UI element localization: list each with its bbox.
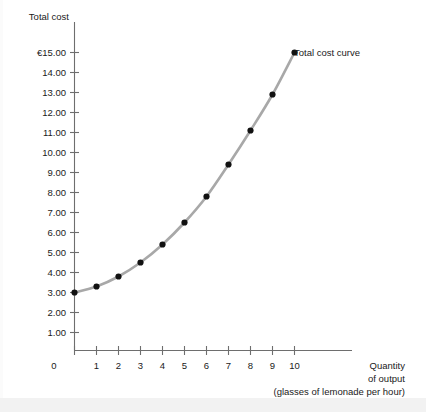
y-tick-label: 7.00 — [48, 207, 67, 218]
y-tick-label: 6.00 — [48, 227, 67, 238]
y-tick-label: 12.00 — [42, 107, 66, 118]
data-point — [247, 127, 253, 133]
y-tick-label: 9.00 — [48, 167, 67, 178]
y-tick-label: €15.00 — [37, 47, 66, 58]
x-tick-label: 3 — [138, 360, 143, 371]
x-tick-label: 4 — [160, 360, 165, 371]
data-point — [159, 241, 165, 247]
data-point — [203, 193, 209, 199]
data-point — [115, 273, 121, 279]
y-tick-label: 14.00 — [42, 67, 66, 78]
y-tick-label: 1.00 — [48, 327, 67, 338]
series-label: Total cost curve — [294, 47, 360, 58]
data-point — [137, 259, 143, 265]
total-cost-curve-chart: Total cost €15.00 14.00 13.00 12.00 11 — [0, 0, 426, 412]
y-tick-label: 13.00 — [42, 87, 66, 98]
y-tick-label: 3.00 — [48, 287, 67, 298]
x-tick-labels: 0 1 2 3 4 5 6 7 8 9 10 — [51, 360, 299, 371]
y-tick-label: 2.00 — [48, 307, 67, 318]
x-tick-label: 7 — [226, 360, 231, 371]
x-axis-title-line2: of output — [368, 373, 405, 384]
y-tick-label: 10.00 — [42, 147, 66, 158]
x-tick-label: 1 — [94, 360, 99, 371]
x-tick-label: 10 — [289, 360, 300, 371]
data-point — [269, 91, 275, 97]
y-tick-label: 8.00 — [48, 187, 67, 198]
chart-page: Total cost €15.00 14.00 13.00 12.00 11 — [0, 0, 426, 412]
x-axis-title-line3: (glasses of lemonade per hour) — [274, 386, 406, 397]
data-point — [181, 219, 187, 225]
x-tick-label: 8 — [248, 360, 253, 371]
y-tick-label: 4.00 — [48, 267, 67, 278]
x-tick-label: 0 — [51, 360, 56, 371]
data-point — [93, 283, 99, 289]
x-tick-label: 6 — [204, 360, 209, 371]
x-tick-label: 5 — [182, 360, 187, 371]
data-point-markers — [71, 49, 297, 295]
data-point — [71, 289, 77, 295]
total-cost-curve-line — [75, 53, 295, 293]
data-point — [225, 161, 231, 167]
y-tick-label: 5.00 — [48, 247, 67, 258]
y-axis-title: Total cost — [29, 11, 69, 22]
y-tick-label: 11.00 — [43, 127, 66, 138]
x-tick-label: 9 — [270, 360, 275, 371]
x-tick-label: 2 — [116, 360, 121, 371]
x-axis-title-line1: Quantity — [370, 360, 406, 371]
y-tick-labels: €15.00 14.00 13.00 12.00 11.00 10.00 9.0… — [37, 47, 66, 338]
